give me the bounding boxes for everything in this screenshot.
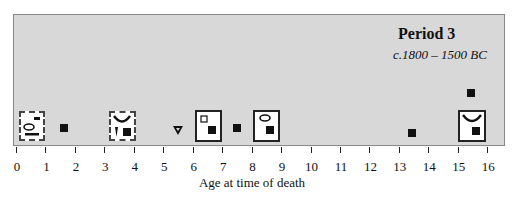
burial-marker-age-1-5 <box>60 124 68 132</box>
x-tick-label: 11 <box>335 159 348 175</box>
x-tick <box>134 147 135 153</box>
x-tick <box>281 147 282 153</box>
x-tick <box>340 147 341 153</box>
burial-marker-age-15-5 <box>458 110 486 142</box>
x-tick-label: 6 <box>190 159 197 175</box>
grave-goods-icon <box>21 113 43 139</box>
chart-subtitle: c.1800 – 1500 BC <box>393 47 487 63</box>
burial-marker-age-5-5 <box>173 126 183 135</box>
x-tick <box>311 147 312 153</box>
x-tick-label: 15 <box>452 159 465 175</box>
grave-goods-icon <box>111 113 134 139</box>
x-tick-label: 2 <box>73 159 80 175</box>
x-tick-label: 7 <box>220 159 227 175</box>
x-axis-label: Age at time of death <box>199 175 305 191</box>
x-tick-label: 14 <box>423 159 436 175</box>
x-tick <box>487 147 488 153</box>
x-tick-label: 1 <box>43 159 50 175</box>
x-tick-label: 8 <box>249 159 256 175</box>
x-tick-label: 4 <box>132 159 139 175</box>
x-tick-label: 9 <box>279 159 286 175</box>
x-tick-label: 0 <box>14 159 21 175</box>
x-tick <box>428 147 429 153</box>
x-tick <box>222 147 223 153</box>
x-tick <box>104 147 105 153</box>
burial-marker-age-7-5 <box>233 124 241 132</box>
x-tick <box>369 147 370 153</box>
x-tick <box>45 147 46 153</box>
x-tick-label: 16 <box>482 159 495 175</box>
x-tick <box>193 147 194 153</box>
burial-marker-age-15-5-upper <box>467 89 475 97</box>
burial-marker-age-6-5 <box>195 110 222 142</box>
burial-marker-age-0-5 <box>19 111 45 141</box>
burial-marker-age-3-5 <box>109 111 136 141</box>
x-tick-label: 12 <box>364 159 377 175</box>
burial-marker-age-13-5 <box>408 129 416 137</box>
x-tick <box>75 147 76 153</box>
burial-marker-age-8-5 <box>253 110 280 142</box>
x-tick-label: 5 <box>161 159 168 175</box>
x-tick-label: 13 <box>393 159 406 175</box>
x-tick-label: 3 <box>102 159 109 175</box>
x-tick-label: 10 <box>305 159 318 175</box>
x-tick <box>399 147 400 153</box>
grave-goods-icon <box>197 112 220 140</box>
x-tick <box>458 147 459 153</box>
x-tick <box>163 147 164 153</box>
chart-title: Period 3 <box>398 25 455 43</box>
x-tick <box>16 147 17 153</box>
grave-goods-icon <box>255 112 278 140</box>
x-tick <box>252 147 253 153</box>
grave-goods-icon <box>460 112 484 140</box>
